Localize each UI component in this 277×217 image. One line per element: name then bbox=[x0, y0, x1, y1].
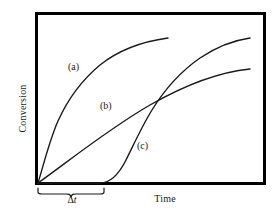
y-axis-label: Conversion bbox=[14, 0, 32, 217]
x-axis-label: Time bbox=[130, 193, 200, 204]
curve-a-label: (a) bbox=[68, 61, 79, 72]
conversion-vs-time-figure: Conversion Time (a) (b) (c) Δt bbox=[0, 0, 277, 217]
induction-period-label: Δt bbox=[46, 194, 98, 205]
chart-canvas bbox=[0, 0, 277, 217]
curve-b-label: (b) bbox=[100, 100, 112, 111]
t-symbol: t bbox=[74, 194, 77, 205]
curve-c-label: (c) bbox=[137, 140, 148, 151]
